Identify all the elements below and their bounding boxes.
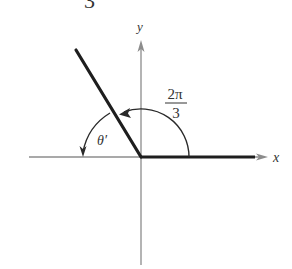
- reference-angle-label: θ′: [97, 133, 108, 148]
- angle-numerator: 2π: [167, 86, 183, 102]
- angle-label: 2π 3: [165, 86, 187, 121]
- top-partial-text: 3: [84, 0, 95, 13]
- y-axis-label: y: [135, 19, 143, 34]
- reference-arc-arrow-icon: [80, 146, 87, 157]
- angle-denominator: 3: [172, 105, 180, 121]
- angle-arc-arrow-icon: [119, 108, 131, 118]
- x-axis-label: x: [272, 150, 280, 165]
- reference-angle-figure: 3 x y 2π 3 θ′: [0, 0, 292, 269]
